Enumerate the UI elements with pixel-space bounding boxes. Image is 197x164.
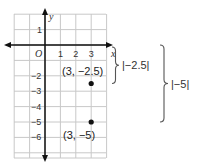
tick-labels: yxO1231−2−3−4−5−6	[31, 11, 116, 142]
point-label: (3, −2.5)	[62, 65, 103, 77]
abs-value-label: |−5|	[171, 78, 189, 90]
y-axis-arrow-up-icon	[42, 8, 48, 15]
y-tick-label: −3	[31, 86, 41, 96]
coordinate-diagram: yxO1231−2−3−4−5−6 (3, −2.5)(3, −5) |−2.5…	[0, 0, 197, 164]
x-axis-arrow-left-icon	[4, 42, 11, 48]
y-tick-label: −5	[31, 117, 41, 127]
abs-value-label: |−2.5|	[122, 59, 149, 71]
braces: |−2.5||−5|	[112, 45, 189, 122]
axes	[4, 8, 113, 162]
points: (3, −2.5)(3, −5)	[62, 65, 103, 142]
x-tick-label: 2	[73, 49, 78, 59]
point-marker	[89, 119, 94, 124]
y-tick-label: −4	[31, 102, 41, 112]
brace-icon	[160, 45, 168, 122]
x-tick-label: 3	[89, 49, 94, 59]
origin-label: O	[35, 48, 42, 59]
point-marker	[89, 81, 94, 86]
y-tick-label: 1	[37, 25, 42, 35]
point-label: (3, −5)	[63, 129, 95, 141]
y-tick-label: −6	[31, 132, 41, 142]
y-tick-label: −2	[31, 71, 41, 81]
x-tick-label: 1	[58, 49, 63, 59]
y-axis-label: y	[48, 11, 54, 22]
